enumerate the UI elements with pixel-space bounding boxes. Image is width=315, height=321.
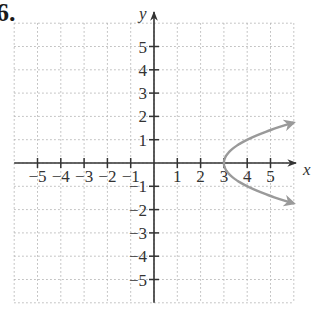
y-tick-label: 2 bbox=[139, 107, 148, 126]
y-tick-label: −1 bbox=[129, 177, 147, 196]
x-tick-label: 2 bbox=[196, 167, 205, 186]
y-tick-label: 4 bbox=[139, 61, 148, 80]
x-tick-label: −5 bbox=[28, 167, 46, 186]
y-tick-label: −2 bbox=[129, 201, 147, 220]
parabola-lower-branch bbox=[224, 163, 294, 203]
coordinate-plane: −5−4−3−2−11234554321−1−2−3−4−5xy bbox=[0, 0, 315, 321]
y-tick-label: −5 bbox=[129, 271, 147, 290]
parabola-upper-branch bbox=[224, 123, 294, 163]
y-tick-label: −4 bbox=[129, 247, 148, 266]
x-tick-label: 1 bbox=[173, 167, 182, 186]
x-tick-label: −2 bbox=[98, 167, 116, 186]
x-tick-label: 4 bbox=[243, 167, 252, 186]
y-tick-label: 5 bbox=[139, 38, 148, 57]
x-tick-label: 5 bbox=[266, 167, 275, 186]
x-tick-label: −3 bbox=[75, 167, 93, 186]
y-tick-label: 3 bbox=[139, 84, 148, 103]
x-axis-label: x bbox=[302, 160, 311, 179]
y-tick-label: 1 bbox=[139, 131, 148, 150]
axes bbox=[14, 12, 296, 303]
x-tick-label: −4 bbox=[52, 167, 71, 186]
y-tick-label: −3 bbox=[129, 224, 147, 243]
y-axis-label: y bbox=[137, 4, 147, 23]
